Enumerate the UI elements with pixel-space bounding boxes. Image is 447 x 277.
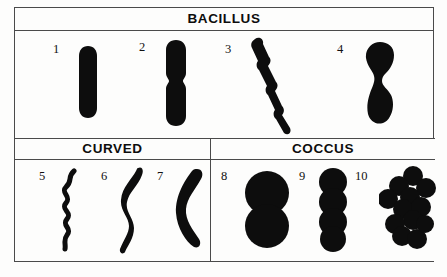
specimen-7: 7 <box>155 160 213 261</box>
curved-spirillum-icon <box>117 166 147 254</box>
bacillus-paired-rod-icon <box>163 39 189 127</box>
specimen-number-10: 10 <box>355 170 368 183</box>
specimen-number-5: 5 <box>39 170 45 183</box>
specimen-number-4: 4 <box>337 43 343 56</box>
specimen-number-9: 9 <box>299 170 305 183</box>
bacillus-dividing-rod-icon <box>363 41 397 125</box>
section-header-curved: CURVED <box>15 138 211 160</box>
section-header-coccus: COCCUS <box>211 138 435 160</box>
section-panel-curved: 5 6 7 <box>15 160 211 261</box>
bacteria-morphology-figure: BACILLUS 1 2 <box>0 0 447 277</box>
coccus-streptococcus-chain-icon <box>317 168 349 252</box>
section-label-bacillus: BACILLUS <box>187 12 260 26</box>
specimen-number-7: 7 <box>157 170 163 183</box>
bacillus-single-rod-icon <box>77 45 99 119</box>
coccus-diplococcus-icon <box>243 170 291 250</box>
specimen-9: 9 <box>297 160 359 261</box>
specimen-number-8: 8 <box>221 170 227 183</box>
section-label-coccus: COCCUS <box>292 142 354 156</box>
specimen-number-1: 1 <box>53 43 59 56</box>
specimen-1: 1 <box>51 31 137 138</box>
bacillus-rod-chain-icon <box>245 37 305 135</box>
specimen-6: 6 <box>99 160 161 261</box>
specimen-number-2: 2 <box>139 41 145 54</box>
specimen-number-3: 3 <box>225 43 231 56</box>
specimen-4: 4 <box>335 31 435 138</box>
specimen-2: 2 <box>137 31 223 138</box>
curved-vibrio-icon <box>173 166 205 250</box>
section-panel-bacillus: 1 2 3 <box>15 31 433 138</box>
section-label-curved: CURVED <box>82 142 142 156</box>
figure-frame: BACILLUS 1 2 <box>14 7 434 262</box>
specimen-10: 10 <box>353 160 435 261</box>
specimen-8: 8 <box>219 160 305 261</box>
specimen-5: 5 <box>37 160 99 261</box>
specimen-number-6: 6 <box>101 170 107 183</box>
section-panel-coccus: 8 9 <box>211 160 435 261</box>
section-header-bacillus: BACILLUS <box>15 8 433 31</box>
coccus-staphylococcus-cluster-icon <box>379 166 437 252</box>
curved-spirochete-icon <box>57 168 83 252</box>
specimen-3: 3 <box>223 31 327 138</box>
